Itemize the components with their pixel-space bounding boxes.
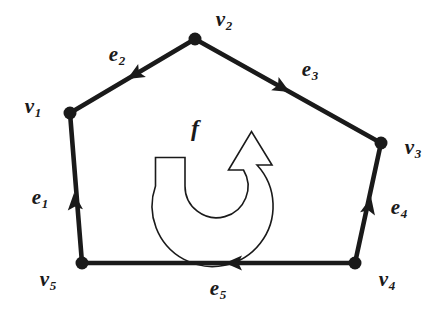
vertex-dot-v3 bbox=[375, 137, 388, 150]
vertex-label-v2-subscript: 2 bbox=[226, 17, 233, 32]
edge-label-e4-base: e bbox=[391, 195, 400, 219]
edge-label-e3-base: e bbox=[302, 57, 311, 81]
edge-label-e5-base: e bbox=[210, 276, 219, 300]
face-orientation-arrow bbox=[152, 132, 273, 267]
vertex-label-v3-base: v bbox=[405, 135, 414, 159]
edge-arrowhead-e2 bbox=[124, 64, 146, 86]
edge-arrowhead-group bbox=[66, 64, 378, 271]
vertex-label-v1: v1 bbox=[25, 96, 41, 119]
edge-label-e5-subscript: 5 bbox=[220, 286, 227, 301]
edge-label-e5: e5 bbox=[210, 278, 226, 301]
edge-label-e2: e2 bbox=[109, 44, 125, 67]
vertex-label-v4-base: v bbox=[379, 267, 388, 291]
vertex-label-v5-subscript: 5 bbox=[50, 277, 57, 292]
vertex-label-v4-subscript: 4 bbox=[389, 277, 396, 292]
edge-line-group bbox=[70, 39, 381, 263]
face-label-f: f bbox=[191, 116, 199, 140]
vertex-dot-v5 bbox=[76, 257, 89, 270]
diagram-canvas bbox=[0, 0, 443, 317]
vertex-dot-v1 bbox=[64, 107, 77, 120]
vertex-label-v1-base: v bbox=[25, 94, 34, 118]
vertex-label-v4: v4 bbox=[379, 269, 395, 292]
edge-label-e2-subscript: 2 bbox=[119, 52, 126, 67]
edge-label-e3-subscript: 3 bbox=[312, 67, 319, 82]
edge-arrowhead-e3 bbox=[271, 77, 293, 99]
edge-label-e4-subscript: 4 bbox=[401, 205, 408, 220]
edge-arrowhead-e1 bbox=[66, 192, 83, 210]
edge-label-e4: e4 bbox=[391, 197, 407, 220]
edge-label-e2-base: e bbox=[109, 42, 118, 66]
vertex-label-v3-subscript: 3 bbox=[415, 145, 422, 160]
edge-label-e1: e1 bbox=[32, 187, 48, 210]
vertex-label-v2-base: v bbox=[216, 7, 225, 31]
vertex-label-v1-subscript: 1 bbox=[35, 104, 42, 119]
vertex-dot-v2 bbox=[189, 33, 202, 46]
edge-label-e3: e3 bbox=[302, 59, 318, 82]
vertex-label-v5-base: v bbox=[40, 267, 49, 291]
vertex-label-v2: v2 bbox=[216, 9, 232, 32]
edge-label-e1-subscript: 1 bbox=[42, 195, 49, 210]
counterclockwise-arrow-icon bbox=[152, 132, 273, 267]
pentagon-face-diagram: f e1e2e3e4e5v1v2v3v4v5 bbox=[0, 0, 443, 317]
vertex-dot-group bbox=[64, 33, 388, 270]
edge-label-e1-base: e bbox=[32, 185, 41, 209]
face-label-base: f bbox=[191, 115, 199, 141]
vertex-dot-v4 bbox=[349, 257, 362, 270]
vertex-label-v3: v3 bbox=[405, 137, 421, 160]
edge-line-e1 bbox=[70, 113, 82, 263]
vertex-label-v5: v5 bbox=[40, 269, 56, 292]
